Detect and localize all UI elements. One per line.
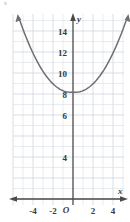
x-tick-label-minus-4: -4: [29, 206, 37, 216]
y-tick-label-12: 12: [58, 48, 68, 58]
y-tick-label-6: 6: [63, 111, 68, 121]
y-tick-label-10: 10: [58, 69, 68, 79]
x-tick-label-4: 4: [111, 206, 116, 216]
y-tick-label-14: 14: [58, 27, 68, 37]
x-tick-label-2: 2: [91, 206, 96, 216]
y-tick-label-8: 8: [63, 90, 68, 100]
origin-label: O: [63, 205, 70, 215]
corner-speck: [4, 2, 7, 5]
x-axis-label: x: [117, 186, 123, 196]
coordinate-plane-svg: 14 12 10 8 6 4 -4 -2 2 4 O y x: [0, 0, 130, 222]
graph-figure: 14 12 10 8 6 4 -4 -2 2 4 O y x: [0, 0, 130, 222]
y-tick-label-4: 4: [63, 153, 68, 163]
x-tick-label-minus-2: -2: [49, 206, 57, 216]
